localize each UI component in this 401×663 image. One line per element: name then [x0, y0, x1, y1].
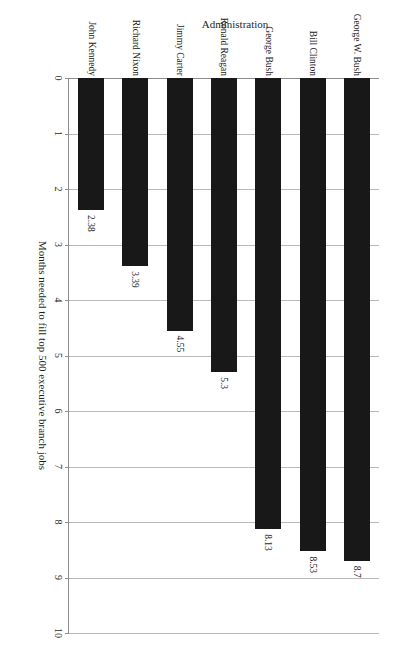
- tick-label: 7: [53, 455, 64, 479]
- tick-mark: [65, 300, 69, 301]
- bar-row: 5.3: [202, 78, 246, 633]
- bar-row: 8.7: [335, 78, 379, 633]
- tick-label: 9: [53, 566, 64, 590]
- tick-label: 5: [53, 344, 64, 368]
- category-axis-title: Administration: [75, 18, 395, 30]
- tick-label: 6: [53, 399, 64, 423]
- tick-mark: [65, 189, 69, 190]
- value-axis-title: Months needed to fill top 500 executive …: [37, 78, 49, 633]
- bar-row: 2.38: [69, 78, 113, 633]
- tick-label: 0: [53, 66, 64, 90]
- rotated-canvas: 2.383.394.555.38.138.538.7 012345678910 …: [0, 0, 401, 663]
- tick-label: 10: [53, 621, 64, 645]
- bar[interactable]: [167, 78, 193, 331]
- tick-label: 4: [53, 288, 64, 312]
- tick-label: 3: [53, 233, 64, 257]
- gridline: [69, 633, 379, 634]
- bar[interactable]: [300, 78, 326, 551]
- tick-mark: [65, 134, 69, 135]
- bar-row: 4.55: [158, 78, 202, 633]
- bar-row: 8.13: [246, 78, 290, 633]
- tick-mark: [65, 78, 69, 79]
- bar-row: 8.53: [290, 78, 334, 633]
- bar-value-label: 8.13: [263, 534, 273, 551]
- tick-mark: [65, 578, 69, 579]
- tick-mark: [65, 356, 69, 357]
- bar-value-label: 2.38: [86, 215, 96, 232]
- bar-row: 3.39: [113, 78, 157, 633]
- tick-label: 8: [53, 510, 64, 534]
- bar-value-label: 8.53: [308, 556, 318, 573]
- bar[interactable]: [211, 78, 237, 372]
- tick-label: 1: [53, 122, 64, 146]
- bar-value-label: 5.3: [219, 377, 229, 389]
- tick-mark: [65, 411, 69, 412]
- bar-value-label: 4.55: [175, 336, 185, 353]
- bar[interactable]: [344, 78, 370, 561]
- bar-value-label: 8.7: [352, 566, 362, 578]
- bar[interactable]: [122, 78, 148, 266]
- bar-value-label: 3.39: [130, 271, 140, 288]
- tick-mark: [65, 633, 69, 634]
- tick-mark: [65, 467, 69, 468]
- scanned-chart-page: 2.383.394.555.38.138.538.7 012345678910 …: [0, 0, 401, 663]
- bar[interactable]: [255, 78, 281, 529]
- category-axis-title-wrap: Administration: [69, 0, 401, 26]
- bar-chart: 2.383.394.555.38.138.538.7 012345678910 …: [0, 0, 401, 663]
- bar[interactable]: [78, 78, 104, 210]
- plot-area: 2.383.394.555.38.138.538.7: [69, 78, 379, 633]
- tick-mark: [65, 245, 69, 246]
- tick-label: 2: [53, 177, 64, 201]
- tick-mark: [65, 522, 69, 523]
